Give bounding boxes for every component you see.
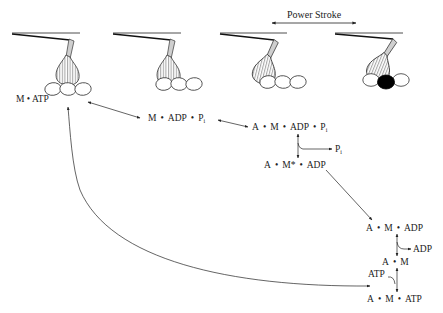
lever-arm xyxy=(220,34,274,40)
lever-arm xyxy=(335,34,393,39)
arrow-a-mstar-adp-to-a-m-adp xyxy=(326,170,372,220)
actin-monomers xyxy=(363,74,409,89)
lever-arm xyxy=(113,34,171,40)
myosin-panel-2 xyxy=(113,33,203,91)
state-a-m-adp-pi: A•M•ADP•Pi xyxy=(252,122,328,133)
state-m-adp-pi: M•ADP•Pi xyxy=(148,113,205,124)
state-a-m: A•M xyxy=(382,257,409,267)
lever-arm xyxy=(12,34,70,40)
state-a-mstar-adp: A•M*•ADP xyxy=(264,160,326,170)
transition-arrows xyxy=(68,102,411,292)
actin-monomers xyxy=(259,75,307,90)
pi-release-arrow xyxy=(298,143,332,149)
myosin-panel-1 xyxy=(12,33,92,96)
state-a-m-adp: A•M•ADP xyxy=(366,223,423,233)
state-a-m-atp: A•M•ATP xyxy=(367,294,422,304)
atp-binding-curve xyxy=(388,277,395,284)
myosin-panel-3 xyxy=(220,33,307,89)
arrow-a-m-atp-to-m-atp xyxy=(68,107,370,286)
arrow-m-adp-pi-to-a-m-adp-pi xyxy=(218,120,248,127)
myosin-head-icon xyxy=(56,39,79,85)
power-stroke-label: Power Stroke xyxy=(287,9,342,20)
crossbridge-cycle-diagram: Power Stroke M • ATP M•ADP•Pi xyxy=(0,0,443,313)
release-adp-label: ADP xyxy=(413,244,432,254)
bind-atp-label: ATP xyxy=(368,269,385,279)
arrow-m-atp-to-m-adp-pi xyxy=(88,102,140,118)
release-pi-label: Pi xyxy=(335,144,342,155)
bound-actin-icon xyxy=(378,75,395,89)
actin-monomers xyxy=(44,82,92,97)
actin-monomers xyxy=(155,77,203,92)
power-stroke-indicator: Power Stroke xyxy=(272,9,356,23)
state-m-atp: M • ATP xyxy=(16,94,49,104)
myosin-panel-4 xyxy=(335,33,409,89)
adp-release-arrow xyxy=(397,242,411,249)
